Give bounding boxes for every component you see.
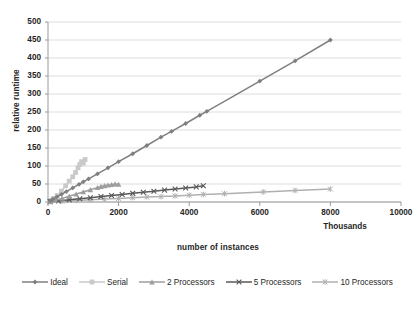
x-axis-units-label: Thousands [300,222,390,231]
legend-item-5-processors[interactable]: 5 Processors [226,277,302,287]
y-tick-label: 250 [11,107,41,116]
x-tick-label: 0 [25,208,71,217]
y-tick-label: 150 [11,143,41,152]
y-tick-label: 400 [11,53,41,62]
series-line [50,40,330,201]
data-point-marker [70,174,75,179]
legend-swatch-asterisk-icon [312,277,338,287]
legend-label: 10 Processors [340,278,392,287]
x-tick-label: 2000 [96,208,142,217]
legend-item-ideal[interactable]: Ideal [22,277,68,287]
legend-label: Ideal [50,278,68,287]
data-point-marker [67,179,72,184]
y-tick-label: 350 [11,71,41,80]
data-point-marker [73,170,78,175]
legend-item-10-processors[interactable]: 10 Processors [312,277,392,287]
legend-label: 2 Processors [167,278,215,287]
y-tick-label: 200 [11,125,41,134]
y-tick-label: 50 [11,179,41,188]
series-ideal [48,38,333,204]
chart-figure: relative runtime number of instances Tho… [0,0,415,310]
y-tick-label: 500 [11,17,41,26]
legend-item-2-processors[interactable]: 2 Processors [139,277,215,287]
chart-legend: IdealSerial2 Processors5 Processors10 Pr… [0,277,415,287]
data-point-marker [33,280,38,285]
legend-swatch-x-icon [226,277,252,287]
x-tick-label: 6000 [237,208,283,217]
legend-label: 5 Processors [254,278,302,287]
legend-swatch-square-icon [79,277,105,287]
x-tick-label: 10000 [378,208,415,217]
legend-label: Serial [107,278,128,287]
y-axis-title: relative runtime [12,53,21,149]
y-tick-label: 100 [11,161,41,170]
plot-area [0,0,415,310]
x-axis-title: number of instances [118,243,318,252]
data-point-marker [63,183,68,188]
x-tick-label: 8000 [307,208,353,217]
y-tick-label: 0 [11,197,41,206]
data-point-marker [90,280,95,285]
data-point-marker [83,157,88,162]
x-tick-label: 4000 [166,208,212,217]
legend-item-serial[interactable]: Serial [79,277,128,287]
y-tick-label: 300 [11,89,41,98]
y-tick-label: 450 [11,35,41,44]
legend-swatch-triangle-icon [139,277,165,287]
legend-swatch-diamond-icon [22,277,48,287]
